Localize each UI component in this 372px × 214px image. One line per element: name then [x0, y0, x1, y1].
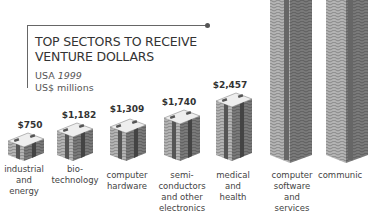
label-line: electronics	[152, 203, 212, 214]
label-line: technology	[45, 175, 105, 186]
money-stack-hardware	[108, 117, 148, 163]
value-label-hardware: $1,309	[97, 104, 157, 114]
label-line: and	[203, 181, 263, 192]
money-stack-biotech	[55, 121, 95, 163]
title-leader-dot	[205, 23, 210, 28]
value-label-industrial: $750	[0, 120, 60, 130]
category-label-medical: medical and health	[203, 170, 263, 203]
label-line: health	[203, 192, 263, 203]
money-stack-semiconductors	[162, 108, 202, 163]
money-stack-medical	[214, 91, 254, 163]
chart-subtitle: USA 1999 US$ millions	[35, 70, 94, 94]
label-line: bio-	[45, 164, 105, 175]
label-line: energy	[0, 186, 54, 197]
subtitle-region-year: USA 1999	[35, 70, 94, 82]
label-line: computer	[262, 170, 322, 181]
category-label-hardware: computer hardware	[97, 170, 157, 192]
label-line: medical	[203, 170, 263, 181]
value-label-semiconductors: $1,740	[149, 97, 209, 107]
year: 1999	[58, 70, 82, 81]
money-stack-communications	[326, 0, 368, 165]
label-line: hardware	[97, 181, 157, 192]
units: US$ millions	[35, 82, 94, 94]
category-label-software: computer software and services	[262, 170, 322, 214]
label-line: communic	[318, 170, 372, 181]
region: USA	[35, 70, 55, 81]
title-line-2: VENTURE DOLLARS	[35, 49, 197, 64]
money-stack-software	[270, 0, 312, 165]
label-line: services	[262, 203, 322, 214]
category-label-communications: communic	[318, 170, 372, 181]
chart-title: TOP SECTORS TO RECEIVE VENTURE DOLLARS	[35, 34, 197, 64]
money-stack-industrial	[6, 131, 46, 163]
value-label-medical: $2,457	[200, 80, 260, 90]
label-line: software	[262, 181, 322, 192]
title-line-1: TOP SECTORS TO RECEIVE	[35, 34, 197, 49]
label-line: computer	[97, 170, 157, 181]
category-label-biotech: bio- technology	[45, 164, 105, 186]
label-line: and	[262, 192, 322, 203]
